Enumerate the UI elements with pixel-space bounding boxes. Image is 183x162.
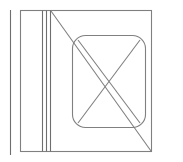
drawing-canvas [0,0,183,162]
long-diagonal-line [51,11,151,151]
outer-frame-rect [21,11,152,152]
line-drawing-svg [0,0,183,162]
